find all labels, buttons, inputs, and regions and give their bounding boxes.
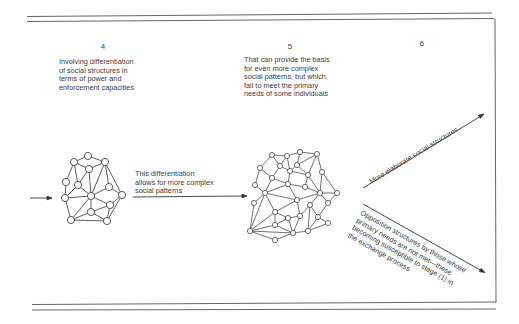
stage-4-number: 4 (93, 42, 113, 51)
stage-5-number: 5 (280, 42, 300, 51)
top-rule-outer (27, 13, 492, 17)
network-stage-5 (247, 149, 339, 242)
top-rule-inner (27, 19, 494, 22)
incoming-arrow (30, 196, 52, 200)
transition-label-4-to-5: This differentiation allows for more com… (135, 170, 214, 196)
stage-6-number: 6 (412, 39, 432, 48)
bottom-rule-inner (32, 302, 496, 305)
stage-4-description: Involving differentiation of social stru… (59, 58, 134, 92)
bottom-rule-outer (32, 309, 496, 310)
stage-5-description: That can provide the basis for even more… (244, 56, 330, 99)
network-stage-4 (61, 152, 125, 224)
right-frame-edge (495, 19, 496, 303)
